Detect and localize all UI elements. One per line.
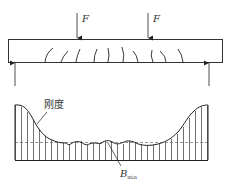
crack-9: [160, 51, 166, 62]
cracks: [45, 47, 183, 62]
bmin-leader: [108, 143, 121, 166]
hatch-lines: [16, 105, 208, 160]
bmin-main: B: [119, 168, 127, 179]
bmin-sub: min: [127, 174, 137, 180]
stiffness-leader: [37, 112, 47, 124]
load-label-left: F: [81, 13, 90, 24]
crack-1: [45, 48, 53, 62]
crack-3: [76, 49, 80, 62]
stiffness-curve: [15, 105, 208, 146]
crack-10: [178, 49, 183, 62]
bmin-label: Bmin: [119, 168, 138, 180]
crack-6: [122, 47, 124, 62]
crack-4: [94, 49, 97, 62]
beam-stiffness-diagram: F F: [0, 0, 230, 189]
beam: [9, 40, 223, 63]
crack-5: [108, 48, 109, 62]
load-label-right: F: [152, 13, 161, 24]
stiffness-label: 刚度: [44, 98, 64, 110]
crack-2: [61, 51, 68, 62]
crack-8: [151, 50, 153, 62]
stiffness-plot: 刚度 Bmin: [15, 98, 208, 180]
crack-7: [133, 51, 138, 62]
